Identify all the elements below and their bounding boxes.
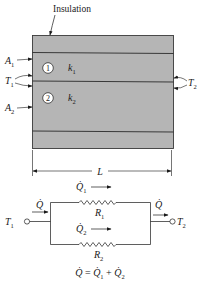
circuit-T2-label: T2 — [177, 216, 186, 229]
length-dimension: L — [33, 150, 172, 177]
A1-arrow — [17, 59, 32, 60]
T1-arrow-lower — [15, 83, 32, 86]
parallel-wall-diagram: Insulation 1 k1 2 k2 A1 T1 A2 T2 L T1 — [0, 0, 199, 288]
layer-1-number: 1 — [46, 64, 50, 73]
composite-wall: 1 k1 2 k2 — [33, 36, 174, 149]
resistor-R2 — [79, 243, 116, 247]
Q1-label: Q̇1 — [76, 181, 86, 194]
resistor-R1 — [79, 201, 116, 205]
outlet-flow-label: Q̇ — [155, 199, 163, 210]
T2-label: T2 — [188, 77, 197, 90]
T2-node — [170, 219, 175, 224]
T1-label: T1 — [5, 75, 14, 88]
T2-arrow-upper — [174, 77, 187, 81]
A2-arrow — [17, 107, 32, 108]
R1-label: R1 — [94, 207, 104, 220]
T1-node — [24, 219, 29, 224]
A1-label: A1 — [4, 55, 14, 68]
insulation-label: Insulation — [53, 4, 91, 14]
heat-flow-equation: Q̇ = Q̇1 + Q̇2 — [75, 267, 124, 280]
layer-2-number: 2 — [46, 94, 50, 103]
inlet-flow-label: Q̇ — [36, 199, 44, 210]
circuit-T1-label: T1 — [5, 216, 14, 229]
Q2-label: Q̇2 — [76, 223, 86, 236]
A2-label: A2 — [4, 102, 14, 115]
T2-arrow-lower — [174, 85, 187, 88]
T1-arrow-upper — [15, 75, 32, 79]
length-label: L — [96, 166, 103, 177]
thermal-resistance-circuit: T1 Q̇ Q̇1 R1 Q̇2 R2 T2 Q̇ — [5, 181, 186, 262]
insulation-leader-arrow — [50, 15, 55, 35]
R2-label: R2 — [93, 249, 103, 262]
